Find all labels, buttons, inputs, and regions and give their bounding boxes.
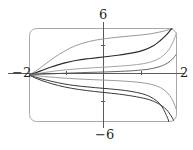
- axis-label-left: −2: [12, 66, 31, 79]
- axis-label-top: 6: [99, 8, 107, 21]
- axis-label-bottom: −6: [95, 128, 114, 141]
- solution-curve-plot: 6 −6 −2 2: [0, 0, 193, 150]
- axis-label-right: 2: [180, 66, 188, 79]
